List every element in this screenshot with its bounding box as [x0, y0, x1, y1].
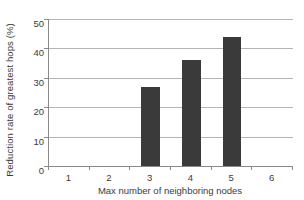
x-axis-title: Max number of neighboring nodes [48, 185, 292, 197]
x-axis-tick-label: 2 [89, 172, 130, 184]
y-axis-tick-label: 0 [18, 166, 44, 176]
y-axis-tick-label: 50 [18, 19, 44, 29]
bar-slot [90, 19, 131, 166]
bar [182, 60, 201, 166]
y-axis-tick-mark [44, 19, 48, 20]
bar-slot [49, 19, 90, 166]
x-axis-tick-labels: 123456 [48, 172, 292, 184]
y-axis-tick-label: 10 [18, 137, 44, 147]
bar-slot [252, 19, 293, 166]
bar-slot [212, 19, 253, 166]
x-axis-tick-mark [251, 166, 252, 170]
y-axis-tick-label: 30 [18, 78, 44, 88]
y-axis-title: Reduction rate of greatest hops (%) [3, 0, 17, 200]
x-axis-tick-mark [292, 166, 293, 170]
x-axis-tick-label: 3 [129, 172, 170, 184]
x-axis-tick-label: 6 [251, 172, 292, 184]
x-axis-tick-mark [48, 166, 49, 170]
bar-chart-figure: Reduction rate of greatest hops (%) 0102… [0, 0, 304, 200]
x-axis-tick-mark [170, 166, 171, 170]
y-axis-tick-label: 20 [18, 107, 44, 117]
y-axis-tick-mark [44, 107, 48, 108]
x-axis-tick-label: 4 [170, 172, 211, 184]
x-axis-tick-mark [89, 166, 90, 170]
x-axis-tick-label: 1 [48, 172, 89, 184]
y-axis-tick-labels: 01020304050 [18, 12, 44, 172]
bar-series [49, 19, 293, 166]
bar-slot [171, 19, 212, 166]
y-axis-tick-mark [44, 48, 48, 49]
bar [141, 87, 160, 166]
x-axis-tick-label: 5 [211, 172, 252, 184]
plot-area [48, 19, 293, 167]
x-axis-tick-marks [48, 166, 292, 171]
y-axis-tick-mark [44, 78, 48, 79]
x-axis-tick-mark [211, 166, 212, 170]
x-axis-tick-mark [129, 166, 130, 170]
y-axis-tick-label: 40 [18, 48, 44, 58]
bar-slot [130, 19, 171, 166]
y-axis-tick-mark [44, 137, 48, 138]
bar [223, 37, 242, 166]
